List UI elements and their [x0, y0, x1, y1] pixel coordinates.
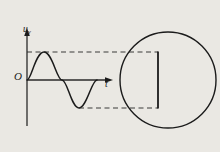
y-axis-label: uy: [23, 25, 31, 36]
diagram-canvas: [0, 0, 220, 152]
wave-diagram-figure: uy O t: [0, 0, 220, 152]
x-axis-label: t: [105, 79, 108, 89]
magnifier-circle: [120, 32, 216, 128]
y-axis-label-subscript: y: [28, 28, 31, 36]
origin-label: O: [14, 71, 22, 82]
